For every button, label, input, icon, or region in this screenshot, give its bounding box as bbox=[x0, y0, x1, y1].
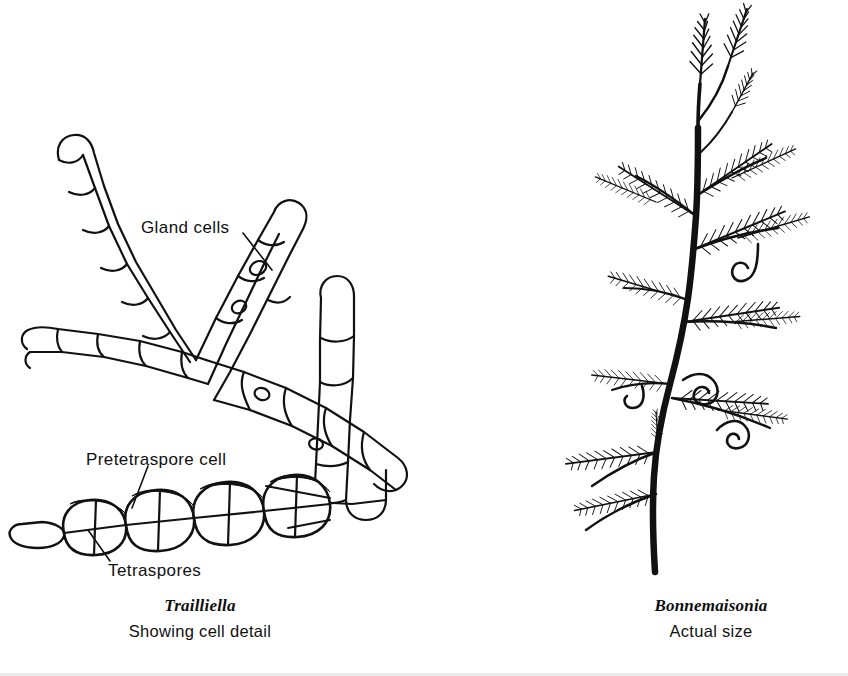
panel-bonnemaisonia: Bonnemaisonia Actual size bbox=[470, 0, 848, 676]
filament-lower-diagonal bbox=[206, 360, 407, 491]
figure-root: Gland cells Pretetraspore cell Tetraspor… bbox=[0, 0, 848, 676]
filament-stub bbox=[268, 297, 290, 302]
branch-left-2 bbox=[606, 272, 690, 307]
branch-right-2 bbox=[687, 206, 811, 258]
hook-left bbox=[625, 386, 644, 408]
tetraspore-cell-1 bbox=[63, 500, 126, 555]
filament-upper-left bbox=[58, 135, 196, 362]
apical-tuft-main bbox=[690, 14, 713, 84]
terminal-cell bbox=[10, 522, 65, 548]
tetraspore-cell-3 bbox=[193, 482, 264, 545]
panel-trailliella: Gland cells Pretetraspore cell Tetraspor… bbox=[0, 0, 470, 676]
branch-left-1 bbox=[592, 162, 704, 223]
apical-tuft-secondary bbox=[699, 1, 755, 120]
caption-sub-bonnemaisonia: Actual size bbox=[596, 622, 826, 641]
branch-basal-left bbox=[573, 476, 659, 531]
hook-lower-right bbox=[717, 421, 749, 448]
caption-genus-bonnemaisonia: Bonnemaisonia bbox=[596, 596, 826, 616]
caption-bonnemaisonia: Bonnemaisonia Actual size bbox=[596, 596, 826, 642]
trailliella-illustration bbox=[0, 0, 470, 676]
main-axis bbox=[653, 128, 698, 572]
branch-right-3 bbox=[684, 299, 800, 335]
apical-tuft-tertiary bbox=[701, 66, 759, 152]
caption-trailliella: Trailliella Showing cell detail bbox=[60, 596, 340, 642]
label-tetraspores: Tetraspores bbox=[108, 562, 201, 579]
branch-left-4 bbox=[564, 431, 659, 487]
bonnemaisonia-illustration bbox=[470, 0, 848, 676]
caption-sub-trailliella: Showing cell detail bbox=[60, 622, 340, 641]
hook-upper bbox=[732, 244, 758, 281]
filament-right-upper bbox=[318, 276, 354, 424]
tetraspore-cell-4 bbox=[263, 475, 330, 537]
branch-right-4 bbox=[670, 376, 788, 437]
tetraspore-chain bbox=[10, 475, 331, 555]
label-pretetraspore-cell: Pretetraspore cell bbox=[86, 451, 226, 468]
caption-genus-trailliella: Trailliella bbox=[60, 596, 340, 616]
label-gland-cells: Gland cells bbox=[141, 219, 230, 236]
leader-gland-cells bbox=[243, 233, 272, 270]
main-axis-apex bbox=[698, 84, 700, 128]
branch-left-3 bbox=[591, 365, 670, 396]
gland-cell-4 bbox=[253, 386, 271, 402]
